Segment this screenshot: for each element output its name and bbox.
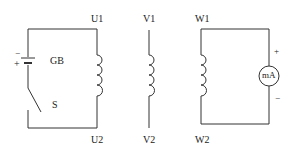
label-v2: V2 xyxy=(143,135,155,145)
label-v1: V1 xyxy=(143,14,155,24)
label-u1: U1 xyxy=(91,14,103,24)
u-circuit-wires xyxy=(28,29,97,128)
circuit-diagram: U1 U2 V1 V2 W1 W2 GB − + S mA + − xyxy=(0,0,293,151)
battery-minus-sign: − xyxy=(15,49,20,58)
battery-label: GB xyxy=(50,56,64,66)
coil-v-icon xyxy=(149,55,155,96)
meter-plus-sign: + xyxy=(274,47,279,56)
coil-u-icon xyxy=(97,55,103,96)
coil-w-icon xyxy=(201,55,207,96)
battery-plus-sign: + xyxy=(14,59,20,69)
label-w1: W1 xyxy=(195,14,209,24)
meter-minus-sign: − xyxy=(275,94,280,103)
switch-icon xyxy=(28,88,41,112)
battery-icon xyxy=(21,58,35,63)
switch-label: S xyxy=(52,100,58,110)
label-u2: U2 xyxy=(91,135,103,145)
label-w2: W2 xyxy=(195,135,209,145)
meter-label: mA xyxy=(262,71,276,80)
